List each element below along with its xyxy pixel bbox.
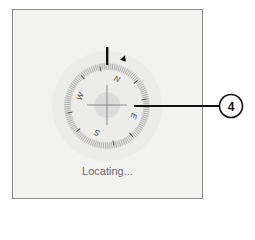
locating-status-text: Locating... — [12, 165, 203, 177]
callout-number: 4 — [228, 100, 235, 114]
north-marker-icon — [106, 47, 108, 65]
